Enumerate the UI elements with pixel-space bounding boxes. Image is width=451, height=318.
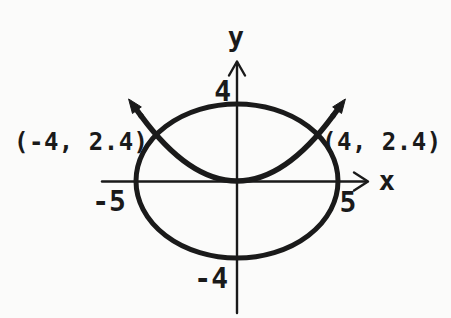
y-tick-neg-label: -4: [194, 262, 228, 295]
x-tick-neg-label: -5: [92, 185, 126, 218]
y-tick-pos-label: 4: [214, 75, 231, 108]
x-tick-pos-label: 5: [340, 186, 357, 219]
figure: x y 4 -4 -5 5 (-4, 2.4) (4, 2.4): [0, 0, 451, 318]
graph-canvas: x y 4 -4 -5 5 (-4, 2.4) (4, 2.4): [0, 0, 451, 318]
y-axis: y: [228, 21, 245, 313]
x-axis-label: x: [379, 165, 395, 196]
point-label-right: (4, 2.4): [322, 128, 442, 156]
y-axis-label: y: [228, 21, 244, 52]
point-label-left: (-4, 2.4): [14, 128, 149, 156]
